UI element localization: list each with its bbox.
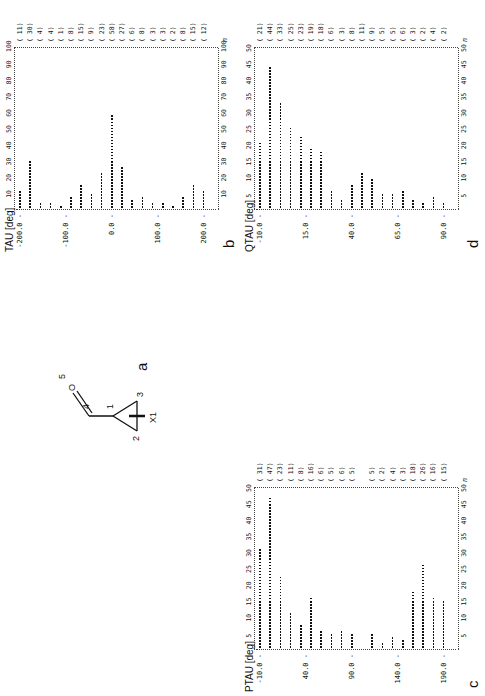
bar-count-label: ( 6) <box>327 26 335 42</box>
n-axis-top <box>254 48 255 210</box>
panel-label-d: d <box>464 240 481 248</box>
histogram-bar <box>401 639 405 648</box>
category-tick-label: 90.0 - <box>440 214 448 248</box>
n-tick-label: 45 <box>460 60 468 68</box>
bar-count-label: ( 6) <box>338 466 346 482</box>
histogram-bar <box>202 190 206 208</box>
n-axis-top <box>254 488 255 650</box>
histogram-bar <box>329 633 333 648</box>
bar-count-label: ( 2) <box>169 26 177 42</box>
histogram-panel-c: PTAU [deg] c 551010151520202525303035354… <box>244 442 484 692</box>
histogram-bar <box>299 135 303 208</box>
bar-count-label: ( 5) <box>368 466 376 482</box>
bar-count-label: ( 23) <box>297 22 305 42</box>
category-tick-label: -200.0 - <box>16 214 24 248</box>
n-tick-label: 100 <box>5 40 13 52</box>
n-tick-label: 50 <box>245 44 253 52</box>
bar-count-label: ( 5) <box>327 466 335 482</box>
n-tick-label: 30 <box>460 109 468 117</box>
n-axis-right <box>254 47 458 48</box>
histogram-bar <box>340 630 344 648</box>
category-tick-label: 200.0 - <box>200 214 208 248</box>
n-tick-label: 25 <box>245 125 253 133</box>
bar-count-label: ( 18) <box>317 22 325 42</box>
bar-count-label: ( 15) <box>77 22 85 42</box>
n-tick-label: 15 <box>460 598 468 606</box>
bar-count-label: ( 16) <box>307 462 315 482</box>
histogram-bar <box>391 193 395 208</box>
bar-count-label: ( 8) <box>297 466 305 482</box>
panel-label-c: c <box>464 681 481 689</box>
bar-count-label: ( 6) <box>317 466 325 482</box>
bar-count-label: ( 4) <box>429 26 437 42</box>
bar-count-label: ( 8) <box>348 26 356 42</box>
histogram-bar <box>431 596 435 648</box>
n-tick-label: 35 <box>460 533 468 541</box>
bar-count-label: ( 11) <box>287 462 295 482</box>
histogram-bar <box>329 190 333 208</box>
bar-count-label: ( 8) <box>138 26 146 42</box>
category-tick-label: -10.0 - <box>256 214 264 248</box>
bar-count-label: ( 2) <box>440 26 448 42</box>
bar-count-label: ( 2) <box>378 466 386 482</box>
bar-count-label: ( 31) <box>256 462 264 482</box>
bar-count-label: ( 11) <box>16 22 24 42</box>
histogram-bar <box>370 633 374 648</box>
n-tick-label: 70 <box>220 93 228 101</box>
histogram-bar <box>350 633 354 648</box>
n-tick-label: 35 <box>245 93 253 101</box>
bar-count-label: ( 3) <box>409 26 417 42</box>
n-axis-label: n <box>460 478 469 482</box>
category-tick-label: -100.0 - <box>62 214 70 248</box>
category-tick-label: 140.0 - <box>394 654 402 688</box>
n-tick-label: 10 <box>245 614 253 622</box>
n-tick-label: 40 <box>460 77 468 85</box>
histogram-bar <box>299 624 303 648</box>
bar-count-label: ( 18) <box>409 462 417 482</box>
category-tick-label: 15.0 - <box>302 214 310 248</box>
histogram-bar <box>120 166 124 208</box>
histogram-bar <box>49 202 53 208</box>
n-tick-label: 25 <box>460 125 468 133</box>
category-tick-label: 0.0 - <box>108 214 116 248</box>
histogram-bar <box>370 178 374 208</box>
n-tick-label: 5 <box>245 194 253 198</box>
bar-count-label: ( 5) <box>348 466 356 482</box>
histogram-bar <box>442 600 446 649</box>
n-tick-label: 20 <box>220 174 228 182</box>
bar-count-label: ( 27) <box>118 22 126 42</box>
histogram-bar <box>38 202 42 208</box>
histogram-bar <box>411 199 415 208</box>
bar-count-label: ( 15) <box>440 462 448 482</box>
histogram-bar <box>309 596 313 648</box>
molecule-panel-a: X1 1 2 3 4 O 5 a <box>55 321 165 471</box>
histogram-bar <box>319 630 323 648</box>
histogram-bar <box>380 193 384 208</box>
histogram-bar <box>258 548 262 648</box>
n-tick-label: 5 <box>460 634 468 638</box>
n-tick-label: 20 <box>245 581 253 589</box>
n-tick-label: 40 <box>5 141 13 149</box>
bar-count-label: ( 3) <box>149 26 157 42</box>
n-tick-label: 20 <box>460 581 468 589</box>
histogram-bar <box>140 196 144 208</box>
n-tick-label: 50 <box>245 484 253 492</box>
histogram-bar <box>360 172 364 208</box>
histogram-bar <box>268 66 272 208</box>
histogram-bar <box>130 199 134 208</box>
category-axis <box>256 649 456 650</box>
panel-label-a: a <box>133 363 150 371</box>
n-axis-label: n <box>220 38 229 42</box>
category-tick-label: 40.0 - <box>302 654 310 688</box>
n-tick-label: 90 <box>5 60 13 68</box>
bar-count-label: ( 12) <box>200 22 208 42</box>
n-tick-label: 40 <box>460 517 468 525</box>
n-axis-top <box>14 48 15 210</box>
n-tick-label: 50 <box>460 484 468 492</box>
category-tick-label: 90.0 - <box>348 654 356 688</box>
n-tick-label: 50 <box>460 44 468 52</box>
bar-count-label: ( 44) <box>266 22 274 42</box>
bar-count-label: ( 4) <box>36 26 44 42</box>
category-tick-label: 190.0 - <box>440 654 448 688</box>
n-tick-label: 15 <box>245 158 253 166</box>
